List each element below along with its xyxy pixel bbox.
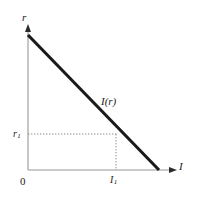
horizontal-axis-label: I: [179, 161, 183, 172]
vertical-axis-arrow-icon: [25, 24, 31, 32]
i1-base: I: [110, 174, 113, 185]
vertical-axis-label: r: [22, 12, 26, 23]
i1-subscript: 1: [114, 178, 118, 186]
r1-subscript: 1: [17, 132, 21, 140]
plot-area: [0, 0, 197, 201]
investment-demand-curve-figure: r I r1 I1 0 I(r): [0, 0, 197, 201]
curve-label: I(r): [101, 96, 116, 107]
origin-label: 0: [20, 176, 26, 187]
horizontal-axis-arrow-icon: [169, 167, 177, 173]
r1-tick-label: r1: [13, 129, 21, 140]
investment-demand-curve-line: [28, 35, 159, 170]
i1-tick-label: I1: [110, 175, 117, 186]
